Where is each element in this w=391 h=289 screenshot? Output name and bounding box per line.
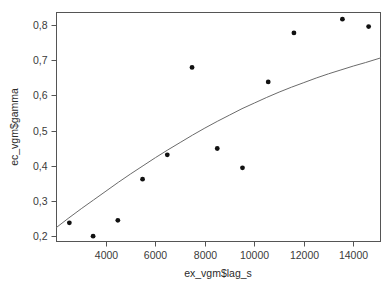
- y-tick-label: 0,7: [33, 54, 48, 66]
- x-tick-label: 10000: [240, 249, 269, 261]
- y-axis-title: ec_vgm$gamma: [8, 88, 20, 166]
- y-tick-label: 0,8: [33, 19, 48, 31]
- y-tick-label: 0,5: [33, 125, 48, 137]
- data-point: [140, 177, 145, 182]
- data-point: [67, 220, 72, 225]
- x-axis-title: ex_vgm$lag_s: [184, 267, 252, 279]
- data-point: [165, 152, 170, 157]
- plot-canvas: 0,20,30,40,50,60,70,8 400060008000100001…: [0, 0, 391, 289]
- x-tick-label: 12000: [290, 249, 319, 261]
- y-tick-label: 0,6: [33, 89, 48, 101]
- data-point: [340, 17, 345, 22]
- x-tick-label: 4000: [95, 249, 119, 261]
- plot-background: [0, 0, 391, 289]
- x-tick-label: 14000: [339, 249, 368, 261]
- data-point: [91, 234, 96, 239]
- data-point: [240, 165, 245, 170]
- x-tick-label: 8000: [194, 249, 218, 261]
- data-point: [366, 24, 371, 29]
- variogram-chart: 0,20,30,40,50,60,70,8 400060008000100001…: [0, 0, 391, 289]
- y-tick-label: 0,3: [33, 195, 48, 207]
- data-point: [215, 146, 220, 151]
- y-tick-label: 0,2: [33, 230, 48, 242]
- data-point: [266, 80, 271, 85]
- y-tick-label: 0,4: [33, 160, 48, 172]
- data-point: [190, 65, 195, 70]
- data-point: [115, 218, 120, 223]
- x-tick-label: 6000: [144, 249, 168, 261]
- data-point: [292, 31, 297, 36]
